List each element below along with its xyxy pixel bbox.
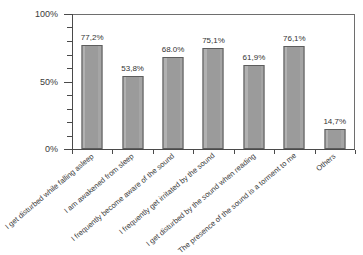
x-axis-tick [274,150,275,154]
bar-series: 77,2%53,8%68.0%75,1%61,9%76,1%14,7% [72,14,355,149]
bar-group: 77,2% [72,14,112,149]
y-axis-label: 50% [24,78,58,87]
bar [203,48,224,149]
category-label: I am awakened from sleep [63,152,136,215]
bar-value-label: 77,2% [81,34,104,42]
y-axis-label: 100% [24,10,58,19]
category-label: Others [315,152,337,173]
bar-group: 68.0% [153,14,193,149]
bar-group: 53,8% [112,14,152,149]
bar-value-label: 14,7% [323,118,346,126]
bar-value-label: 61,9% [243,54,266,62]
category-label: I get disturbed while falling asleep [4,152,95,230]
bar-value-label: 76,1% [283,35,306,43]
y-axis-major-tick [64,149,72,150]
x-axis-tick [112,150,113,154]
bar-value-label: 75,1% [202,37,225,45]
bar-value-label: 68.0% [162,46,185,54]
y-axis-label: 0% [24,145,58,154]
category-label: I frequently get irritated by the sound [118,152,216,236]
bar-value-label: 53,8% [121,65,144,73]
bar [243,65,264,149]
x-axis-tick [153,150,154,154]
y-axis-major-tick [64,14,72,15]
bar [82,45,103,149]
bar [163,57,184,149]
bar-group: 14,7% [315,14,355,149]
bar [324,129,345,149]
bar-group: 61,9% [234,14,274,149]
bar [284,46,305,149]
category-label: I get disturbed by the sound when readin… [145,152,257,248]
x-axis-line [72,149,355,150]
y-axis-major-tick [64,82,72,83]
category-label: I frequently become aware of the sound [70,152,176,243]
x-axis-tick [193,150,194,154]
bar-group: 76,1% [274,14,314,149]
category-label: The presence of the sound is a torment t… [177,152,298,255]
bar [122,76,143,149]
x-axis-tick [315,150,316,154]
bar-group: 75,1% [193,14,233,149]
x-axis-tick [234,150,235,154]
x-axis-tick [72,150,73,154]
x-axis-tick [355,150,356,154]
